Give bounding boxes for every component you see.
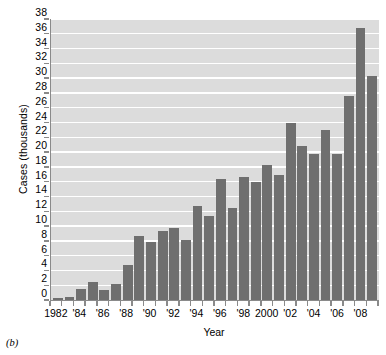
y-tick-mark — [44, 211, 49, 212]
y-tick-label: 26 — [35, 96, 47, 106]
y-tick-label: 18 — [35, 155, 47, 165]
y-tick-label: 30 — [35, 66, 47, 76]
x-tick-mark — [190, 301, 191, 306]
bar — [134, 236, 144, 300]
x-tick-label: '94 — [190, 307, 204, 319]
y-tick-mark — [44, 299, 49, 300]
x-tick-label: '92 — [166, 307, 180, 319]
bar — [146, 242, 156, 300]
y-tick-label: 22 — [35, 125, 47, 135]
y-tick-mark — [44, 77, 49, 78]
bar — [169, 228, 179, 300]
x-tick-label: '90 — [143, 307, 157, 319]
bar — [262, 165, 272, 300]
x-tick-mark — [225, 301, 226, 306]
y-tick-label: 24 — [35, 111, 47, 121]
bar — [99, 290, 109, 300]
bar — [321, 130, 331, 300]
y-tick-mark — [44, 92, 49, 93]
y-tick-mark — [44, 285, 49, 286]
x-tick-mark — [354, 301, 355, 306]
x-tick-mark — [202, 301, 203, 306]
y-tick-label: 34 — [35, 37, 47, 47]
x-tick-mark — [143, 301, 144, 306]
bar — [309, 154, 319, 300]
x-tick-label: '96 — [213, 307, 227, 319]
y-tick-mark — [44, 63, 49, 64]
x-tick-label: '06 — [330, 307, 344, 319]
y-tick-mark — [44, 18, 49, 19]
y-tick-label: 14 — [35, 184, 47, 194]
y-tick-label: 4 — [41, 258, 47, 268]
bar — [88, 282, 98, 300]
y-tick-mark — [44, 151, 49, 152]
plot-area — [50, 19, 379, 301]
y-tick-label: 12 — [35, 199, 47, 209]
x-tick-mark — [131, 301, 132, 306]
x-tick-mark — [166, 301, 167, 306]
bar — [204, 216, 214, 300]
x-tick-mark — [178, 301, 179, 306]
x-tick-mark — [73, 301, 74, 306]
x-tick-mark — [49, 301, 50, 306]
x-tick-mark — [96, 301, 97, 306]
x-tick-mark — [295, 301, 296, 306]
bar — [344, 96, 354, 300]
y-tick-mark — [44, 107, 49, 108]
x-tick-mark — [213, 301, 214, 306]
bar — [367, 76, 377, 300]
y-tick-label: 2 — [41, 273, 47, 283]
y-tick-label: 36 — [35, 22, 47, 32]
x-tick-mark — [120, 301, 121, 306]
x-tick-mark — [377, 301, 378, 306]
bar — [53, 298, 63, 300]
x-tick-mark — [155, 301, 156, 306]
bar — [123, 265, 133, 300]
bar — [274, 175, 284, 300]
x-tick-mark — [342, 301, 343, 306]
x-tick-label: '04 — [307, 307, 321, 319]
x-tick-mark — [237, 301, 238, 306]
bar-chart-figure: Cases (thousands) 3836343230282624222018… — [0, 0, 386, 355]
bar — [286, 123, 296, 300]
x-tick-mark — [366, 301, 367, 306]
x-tick-mark — [272, 301, 273, 306]
y-tick-mark — [44, 137, 49, 138]
x-tick-mark — [108, 301, 109, 306]
bar — [65, 297, 75, 300]
x-tick-label: '84 — [72, 307, 86, 319]
bar — [216, 179, 226, 300]
bar — [228, 208, 238, 300]
bar — [193, 206, 203, 300]
x-tick-label: 1982 — [44, 307, 67, 319]
figure-caption: (b) — [6, 337, 18, 348]
bar-series — [51, 19, 379, 300]
y-tick-label: 16 — [35, 170, 47, 180]
y-tick-label: 20 — [35, 140, 47, 150]
x-tick-label: 2000 — [255, 307, 278, 319]
y-tick-mark — [44, 122, 49, 123]
x-tick-label: '88 — [119, 307, 133, 319]
bar — [111, 284, 121, 300]
y-tick-mark — [44, 166, 49, 167]
bar — [76, 289, 86, 300]
x-tick-label: '08 — [354, 307, 368, 319]
y-tick-mark — [44, 196, 49, 197]
x-tick-mark — [61, 301, 62, 306]
x-tick-mark — [319, 301, 320, 306]
x-axis-title: Year — [50, 326, 378, 338]
y-tick-label: 6 — [41, 244, 47, 254]
bar — [356, 28, 366, 300]
y-tick-mark — [44, 181, 49, 182]
y-tick-label: 32 — [35, 51, 47, 61]
y-axis-tick-labels: 38363432302826242220181614121086420 — [22, 12, 47, 307]
bar — [297, 146, 307, 300]
y-tick-mark — [44, 33, 49, 34]
bar — [181, 240, 191, 300]
x-tick-label: '86 — [96, 307, 110, 319]
y-tick-label: 38 — [35, 7, 47, 17]
y-tick-mark — [44, 255, 49, 256]
y-tick-label: 0 — [41, 288, 47, 298]
bar — [239, 177, 249, 300]
x-tick-mark — [284, 301, 285, 306]
